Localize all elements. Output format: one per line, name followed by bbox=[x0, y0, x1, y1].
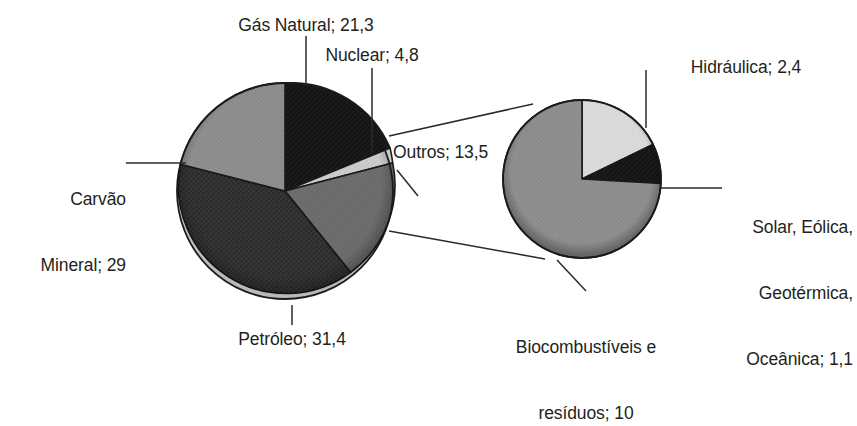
label-carvao-mineral: Carvão Mineral; 29 bbox=[0, 144, 126, 320]
label-solar-line1: Solar, Eólica, bbox=[655, 216, 853, 238]
label-hidraulica: Hidráulica; 2,4 bbox=[566, 56, 857, 78]
label-nuclear: Nuclear; 4,8 bbox=[282, 44, 462, 66]
label-carvao-mineral-line2: Mineral; 29 bbox=[0, 254, 126, 276]
detail-pie bbox=[503, 100, 661, 258]
label-bio-line1: Biocombustíveis e bbox=[470, 336, 702, 358]
label-petroleo: Petróleo; 31,4 bbox=[172, 328, 412, 350]
label-biocombustiveis-residuos: Biocombustíveis e resíduos; 10 bbox=[470, 292, 702, 426]
explosion-connector-top bbox=[389, 104, 533, 136]
label-carvao-mineral-line1: Carvão bbox=[0, 188, 126, 210]
label-gas-natural: Gás Natural; 21,3 bbox=[146, 14, 466, 36]
main-pie bbox=[177, 83, 395, 299]
label-outros: Outros; 13,5 bbox=[393, 141, 583, 163]
label-bio-line2: resíduos; 10 bbox=[470, 402, 702, 424]
leader-outros bbox=[397, 170, 418, 196]
leader-biocombustiveis bbox=[557, 260, 586, 291]
explosion-connector-bottom bbox=[389, 231, 545, 259]
main-pie-edge-shade bbox=[177, 83, 393, 299]
